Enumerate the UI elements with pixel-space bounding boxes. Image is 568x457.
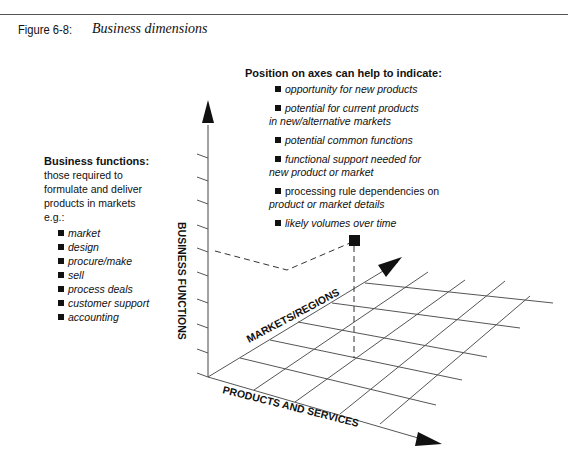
3d-axes-diagram: BUSINESS FUNCTIONS MARKETS/REGIONS PRODU… [0,0,568,457]
vertical-axis-label: BUSINESS FUNCTIONS [176,222,188,340]
arrowhead-icon [378,257,402,277]
business-functions-axis [197,100,214,377]
square-marker-icon [349,235,360,246]
floor-grid [208,262,553,442]
depth-axis-label: MARKETS/REGIONS [244,286,341,345]
arrowhead-icon [202,100,214,123]
arrowhead-icon [415,432,442,446]
horizontal-axis-label: PRODUCTS AND SERVICES [222,383,361,429]
